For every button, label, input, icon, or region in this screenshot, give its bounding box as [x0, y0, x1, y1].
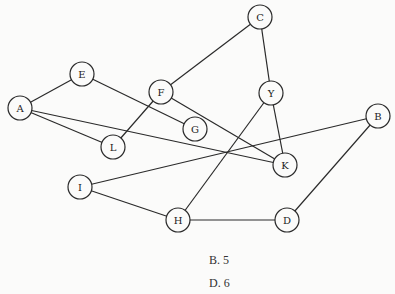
edge-y-h [178, 93, 271, 220]
node-label: B [374, 111, 381, 122]
node-i: I [68, 175, 92, 199]
node-label: L [110, 142, 117, 153]
option-b: B. 5 [209, 253, 229, 268]
graph-diagram: AEFCYGLKBIHD [0, 0, 395, 294]
edge-f-c [161, 17, 260, 92]
nodes-layer: AEFCYGLKBIHD [8, 5, 390, 232]
edge-a-k [20, 108, 285, 165]
node-h: H [166, 208, 190, 232]
node-d: D [275, 208, 299, 232]
node-label: F [158, 87, 165, 98]
node-k: K [273, 153, 297, 177]
node-label: Y [267, 88, 275, 99]
node-label: I [78, 182, 82, 193]
node-label: K [281, 160, 289, 171]
node-e: E [70, 62, 94, 86]
node-c: C [248, 5, 272, 29]
node-a: A [8, 96, 32, 120]
node-g: G [183, 117, 207, 141]
node-l: L [101, 135, 125, 159]
node-label: C [256, 12, 264, 23]
edge-i-h [80, 187, 178, 220]
node-label: E [78, 69, 85, 80]
node-b: B [366, 104, 390, 128]
node-f: F [149, 80, 173, 104]
node-label: H [174, 215, 183, 226]
edge-b-d [287, 116, 378, 220]
edge-a-l [20, 108, 113, 147]
node-label: D [283, 215, 291, 226]
node-y: Y [259, 81, 283, 105]
node-label: A [15, 103, 24, 114]
node-label: G [191, 124, 199, 135]
option-d: D. 6 [209, 276, 230, 291]
